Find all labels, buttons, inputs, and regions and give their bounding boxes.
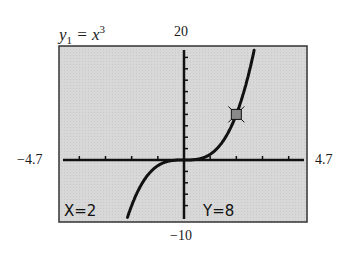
y-readout: Y=8 [202,202,234,220]
graph-screen: X=2 Y=8 [0,0,352,255]
x-readout: X=2 [64,202,96,220]
